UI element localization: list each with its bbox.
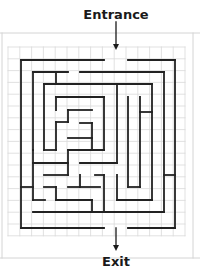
- exit-label: Exit: [102, 254, 130, 269]
- exit-arrow-arrowhead-icon: [113, 245, 119, 251]
- maze-walls: [21, 60, 175, 228]
- entrance-label: Entrance: [83, 7, 148, 22]
- background-grid: [8, 47, 185, 236]
- maze-diagram: Entrance Exit: [0, 0, 200, 271]
